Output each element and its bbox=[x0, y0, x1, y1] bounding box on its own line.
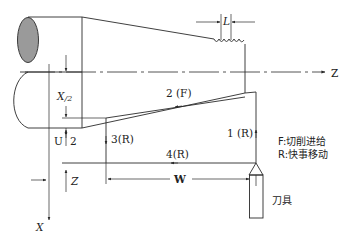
thread-cutting-cycle-diagram: Z X X/2 U 2 Z L 1 (R) bbox=[0, 0, 347, 240]
z-axis-label: Z bbox=[331, 67, 338, 79]
x-half-label: X/2 bbox=[56, 90, 72, 103]
workpiece-end-face bbox=[18, 18, 39, 63]
path-step-2-label: 2 (F) bbox=[166, 87, 192, 99]
thread-profile bbox=[214, 39, 244, 42]
tool-label: 刀具 bbox=[272, 195, 292, 206]
workpiece bbox=[14, 17, 245, 128]
w-dimension: W bbox=[106, 163, 249, 185]
z-increment-label: Z bbox=[70, 175, 79, 187]
z-increment: Z bbox=[31, 170, 79, 192]
path-step-3-label: 3(R) bbox=[111, 133, 134, 145]
taper-upper-edge bbox=[82, 17, 214, 39]
path-step-2 bbox=[106, 97, 245, 118]
path-step-4-label: 4(R) bbox=[166, 148, 189, 160]
legend-feed: F:切削进给 bbox=[278, 135, 326, 147]
u-half-dimension: U 2 bbox=[54, 128, 77, 147]
pitch-label: L bbox=[222, 15, 230, 27]
x-axis: X bbox=[35, 64, 49, 233]
pitch-dimension: L bbox=[196, 14, 255, 40]
legend-rapid: R:快事移动 bbox=[278, 148, 328, 160]
u-divisor: 2 bbox=[70, 135, 77, 147]
tool-path: 1 (R) 2 (F) 3(R) 4(R) bbox=[62, 87, 256, 163]
x-axis-label: X bbox=[35, 221, 44, 233]
legend: F:切削进给 R:快事移动 bbox=[278, 135, 328, 160]
cutting-tool: 刀具 bbox=[249, 163, 292, 218]
x-half-dimension: X/2 bbox=[56, 55, 106, 118]
u-label: U bbox=[54, 135, 63, 147]
path-step-1-label: 1 (R) bbox=[227, 127, 253, 139]
w-label: W bbox=[173, 173, 186, 185]
z-axis: Z bbox=[25, 67, 338, 79]
